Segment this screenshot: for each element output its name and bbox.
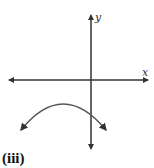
figure-caption: (iii) (2, 150, 25, 167)
y-axis-label: y (95, 11, 101, 24)
graph (0, 0, 154, 168)
parabola-curve (21, 104, 106, 130)
x-axis-label: x (142, 66, 148, 79)
